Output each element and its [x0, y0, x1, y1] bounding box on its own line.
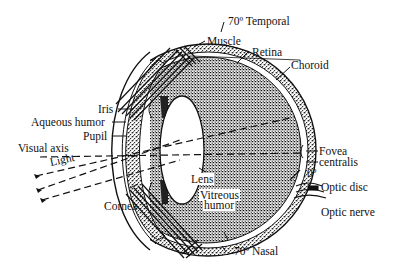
label-cornea: Cornea — [104, 200, 137, 212]
label-lens: Lens — [190, 173, 214, 185]
label-nasal: 70º Nasal — [234, 245, 278, 257]
label-retina: Retina — [252, 46, 282, 58]
lens — [160, 96, 204, 204]
eye-cross-section-drawing — [0, 0, 393, 270]
label-temporal: 70º Temporal — [228, 15, 290, 27]
label-visual-axis: Visual axis — [18, 142, 69, 154]
label-vitreous-line2: humor — [203, 199, 235, 211]
label-pupil: Pupil — [83, 130, 107, 142]
light-arrowheads — [34, 174, 46, 203]
label-fovea-line2: centralis — [319, 156, 358, 168]
label-optic-disc: Optic disc — [321, 181, 368, 193]
label-choroid: Choroid — [291, 59, 329, 71]
label-zero-degrees: 0º — [307, 167, 316, 179]
eye-diagram: 70º Temporal Muscle Retina Choroid Iris … — [0, 0, 393, 270]
label-muscle: Muscle — [207, 35, 241, 47]
label-aqueous-humor: Aqueous humor — [31, 116, 105, 128]
label-iris: Iris — [98, 103, 113, 115]
label-optic-nerve: Optic nerve — [321, 206, 375, 218]
